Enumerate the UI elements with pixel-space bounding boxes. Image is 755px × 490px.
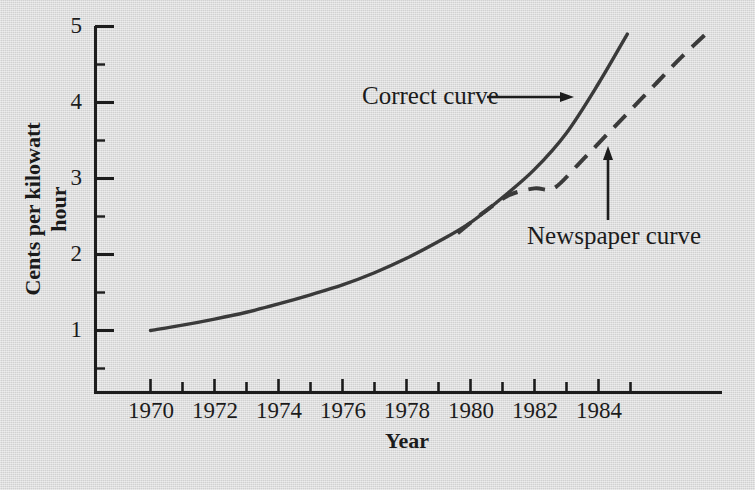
y-axis-title-wrapper: Cents per kilowatt hour — [20, 99, 72, 319]
x-axis-title: Year — [372, 428, 442, 454]
x-tick-label-1974: 1974 — [244, 398, 314, 424]
x-tick-label-1980: 1980 — [436, 398, 506, 424]
y-tick-label-1: 1 — [56, 317, 82, 343]
chart-figure: 5 4 3 2 1 1970 1972 1974 1976 1978 1980 … — [0, 0, 755, 490]
y-tick-label-5: 5 — [56, 13, 82, 39]
series-correct-curve — [151, 34, 628, 330]
annotation-correct-curve: Correct curve — [362, 82, 499, 110]
annotation-newspaper-curve: Newspaper curve — [527, 222, 701, 250]
x-tick-label-1984: 1984 — [564, 398, 634, 424]
correct-curve-arrow — [487, 92, 574, 102]
x-tick-label-1978: 1978 — [372, 398, 442, 424]
x-tick-label-1976: 1976 — [308, 398, 378, 424]
x-tick-label-1972: 1972 — [180, 398, 250, 424]
newspaper-curve-arrow — [603, 146, 613, 220]
x-axis-ticks — [151, 379, 631, 392]
y-axis-title: Cents per kilowatt hour — [20, 122, 71, 295]
x-tick-label-1982: 1982 — [500, 398, 570, 424]
y-major-ticks — [95, 27, 114, 331]
x-tick-label-1970: 1970 — [116, 398, 186, 424]
